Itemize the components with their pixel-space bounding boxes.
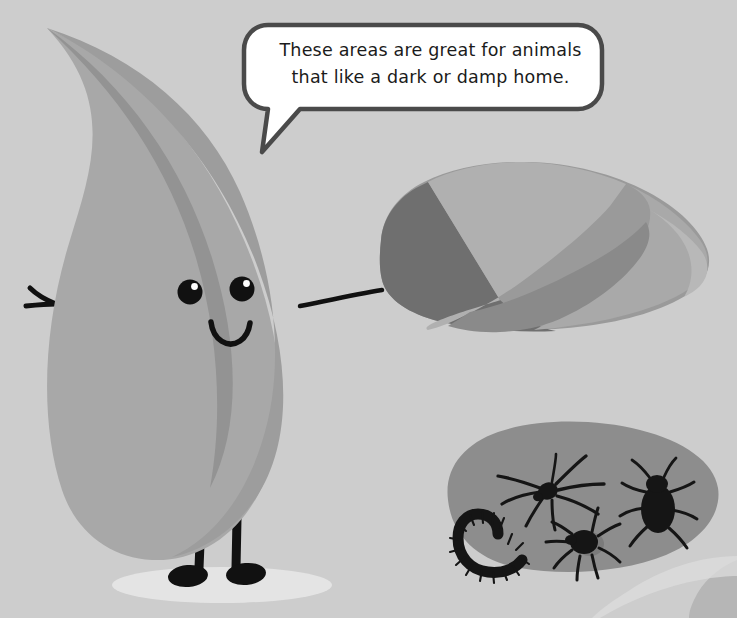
- speech-bubble: [0, 0, 737, 618]
- illustration-scene: These areas are great for animals that l…: [0, 0, 737, 618]
- speech-bubble-shape: [244, 25, 602, 152]
